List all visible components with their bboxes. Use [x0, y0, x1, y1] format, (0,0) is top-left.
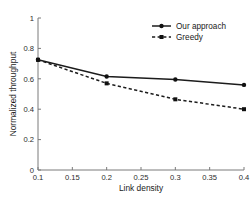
data-point-marker: [104, 74, 108, 78]
y-tick-label: 0.6: [23, 75, 34, 84]
x-tick-label: 0.3: [170, 173, 181, 182]
y-tick-label: 0.2: [23, 135, 34, 144]
legend-label-1: Our approach: [176, 22, 227, 31]
x-tick-label: 0.4: [239, 173, 250, 182]
x-axis-title: Link density: [119, 183, 164, 193]
x-tick-label: 0.1: [33, 173, 44, 182]
y-axis-title: Normalized throughput: [8, 51, 18, 136]
data-point-marker: [105, 81, 109, 85]
data-point-marker: [36, 58, 40, 62]
x-tick-label: 0.15: [65, 173, 80, 182]
legend-marker: [160, 35, 164, 39]
data-point-marker: [173, 97, 177, 101]
y-tick-label: 0.8: [23, 44, 34, 53]
chart-container: 00.20.40.60.810.10.150.20.250.30.350.4Li…: [0, 0, 250, 200]
x-tick-label: 0.25: [134, 173, 149, 182]
x-tick-label: 0.35: [202, 173, 217, 182]
line-chart: 00.20.40.60.810.10.150.20.250.30.350.4Li…: [0, 0, 250, 200]
legend-label-2: Greedy: [176, 33, 204, 42]
series-line-1: [38, 60, 244, 85]
y-tick-label: 0.4: [23, 105, 34, 114]
legend-marker: [159, 24, 163, 28]
y-tick-label: 1: [30, 14, 34, 23]
data-point-marker: [173, 77, 177, 81]
data-point-marker: [242, 107, 246, 111]
data-point-marker: [242, 83, 246, 87]
x-tick-label: 0.2: [101, 173, 112, 182]
